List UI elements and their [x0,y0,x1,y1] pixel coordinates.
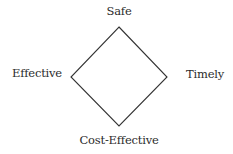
label-effective: Effective [12,68,62,80]
label-safe: Safe [0,6,233,18]
label-timely: Timely [186,69,224,81]
diagram-canvas: Safe Effective Timely Cost-Effective [0,0,233,154]
label-cost-effective: Cost-Effective [0,135,233,147]
diamond-outline [71,27,167,126]
